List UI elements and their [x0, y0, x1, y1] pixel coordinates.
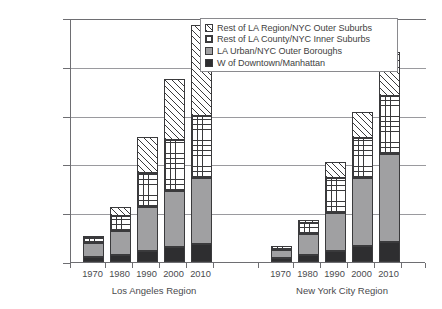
bar-segment: [137, 207, 158, 251]
bar-segment: [83, 238, 104, 243]
x-axis-tick-label: 2010: [181, 269, 221, 279]
bar-segment: [352, 112, 373, 138]
x-axis-tick-mark: [347, 263, 348, 268]
x-axis-tick-mark: [293, 263, 294, 268]
x-axis-tick-mark: [320, 263, 321, 268]
bar-segment: [379, 154, 400, 242]
bar-segment: [298, 234, 319, 255]
bar-segment: [137, 251, 158, 262]
bar-segment: [164, 140, 185, 191]
stacked-bar-chart: 2,500,0002,000,0001,500,0001,000,000500,…: [0, 0, 442, 309]
y-axis-tick-mark: [63, 263, 70, 264]
legend-item: Rest of LA County/NYC Inner Suburbs: [205, 34, 393, 46]
legend-item-label: W of Downtown/Manhattan: [217, 58, 325, 68]
x-axis-group-label: New York City Region: [262, 285, 422, 296]
bar-segment: [325, 251, 346, 262]
legend-swatch-icon: [205, 35, 213, 43]
bar-segment: [325, 213, 346, 251]
bar-segment: [379, 96, 400, 154]
bar-segment: [164, 79, 185, 140]
legend-item: Rest of LA Region/NYC Outer Suburbs: [205, 22, 393, 34]
legend-swatch-icon: [205, 24, 213, 32]
y-axis-tick-mark: [63, 68, 70, 69]
legend-swatch-icon: [205, 59, 213, 67]
y-axis-tick-mark: [63, 117, 70, 118]
x-axis-tick-mark: [401, 263, 402, 268]
legend-item-label: Rest of LA Region/NYC Outer Suburbs: [217, 23, 372, 33]
y-axis-tick-mark: [63, 19, 70, 20]
bar-segment: [110, 216, 131, 231]
bar-segment: [352, 246, 373, 262]
legend-item: LA Urban/NYC Outer Boroughs: [205, 45, 393, 57]
bar-segment: [271, 258, 292, 262]
x-axis-tick-mark: [258, 263, 259, 268]
bar-segment: [110, 255, 131, 262]
bar-segment: [110, 231, 131, 255]
x-axis-tick-mark: [425, 263, 426, 268]
bar-segment: [298, 255, 319, 262]
bar-segment: [191, 116, 212, 178]
bar-segment: [137, 137, 158, 173]
x-axis-tick-mark: [186, 263, 187, 268]
legend-item-label: LA Urban/NYC Outer Boroughs: [217, 46, 342, 56]
x-axis-tick-label: 2010: [369, 269, 409, 279]
bar-segment: [83, 236, 104, 238]
x-axis-tick-mark: [132, 263, 133, 268]
bar-segment: [325, 178, 346, 213]
bar-segment: [110, 207, 131, 216]
legend-item: W of Downtown/Manhattan: [205, 57, 393, 69]
bar-segment: [298, 223, 319, 234]
bar-segment: [164, 191, 185, 247]
bar-segment: [352, 138, 373, 178]
legend-item-label: Rest of LA County/NYC Inner Suburbs: [217, 34, 370, 44]
bar-segment: [137, 173, 158, 207]
x-axis-tick-mark: [105, 263, 106, 268]
y-axis-tick-mark: [63, 214, 70, 215]
x-axis-tick-mark: [374, 263, 375, 268]
x-axis-tick-mark: [70, 263, 71, 268]
bar-segment: [164, 247, 185, 262]
bar-segment: [83, 257, 104, 262]
x-axis-group-label: Los Angeles Region: [74, 285, 234, 296]
bar-segment: [83, 243, 104, 257]
bar-segment: [379, 242, 400, 262]
bar-segment: [191, 244, 212, 262]
bar-segment: [271, 250, 292, 258]
y-axis-tick-mark: [63, 165, 70, 166]
bar-segment: [325, 162, 346, 178]
chart-legend: Rest of LA Region/NYC Outer SuburbsRest …: [200, 18, 398, 72]
bar-segment: [352, 178, 373, 246]
legend-swatch-icon: [205, 47, 213, 55]
x-axis-tick-mark: [159, 263, 160, 268]
x-axis-tick-mark: [213, 263, 214, 268]
bar-segment: [191, 178, 212, 244]
bar-segment: [298, 220, 319, 223]
bar-segment: [271, 246, 292, 250]
